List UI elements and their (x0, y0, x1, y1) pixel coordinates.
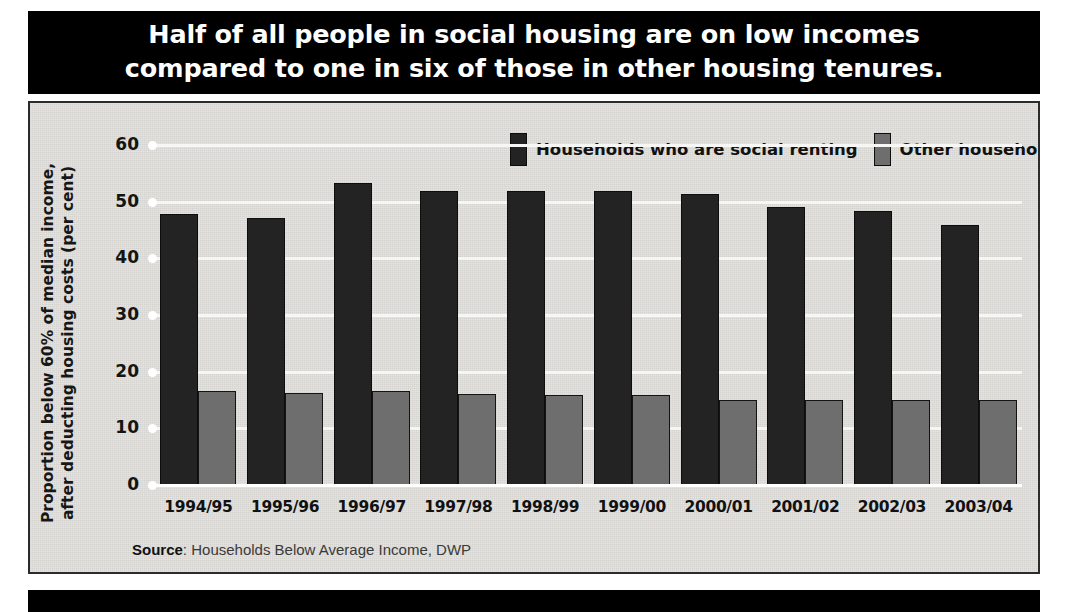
x-tick-label: 1997/98 (415, 498, 502, 522)
bar (805, 400, 843, 487)
x-axis-labels: 1994/951995/961996/971997/981998/991999/… (155, 498, 1022, 522)
chart-panel: Proportion below 60% of median income, a… (28, 101, 1040, 574)
bar-group (589, 147, 676, 487)
bar (632, 395, 670, 487)
bar (854, 211, 892, 487)
bar-group (849, 147, 936, 487)
bar (681, 194, 719, 487)
x-tick-label: 1994/95 (155, 498, 242, 522)
x-axis-line (155, 484, 1022, 487)
bar-group (502, 147, 589, 487)
bar-group (155, 147, 242, 487)
x-tick-label: 2000/01 (675, 498, 762, 522)
x-tick-label: 2001/02 (762, 498, 849, 522)
bar-group (242, 147, 329, 487)
bar (719, 400, 757, 487)
y-tick-label: 10 (115, 417, 139, 437)
bar (198, 391, 236, 487)
x-tick-label: 1999/00 (589, 498, 676, 522)
source-text: Households Below Average Income, DWP (191, 541, 471, 558)
bars-layer (155, 147, 1022, 487)
x-tick-label: 1996/97 (328, 498, 415, 522)
x-tick-label: 2003/04 (935, 498, 1022, 522)
bar (160, 214, 198, 487)
bar (594, 191, 632, 487)
y-tick-label: 0 (127, 474, 139, 494)
title-line-1: Half of all people in social housing are… (148, 17, 920, 51)
bar (285, 393, 323, 487)
bar (507, 191, 545, 487)
y-tick-label: 50 (115, 191, 139, 211)
y-axis-title: Proportion below 60% of median income, a… (38, 143, 78, 543)
title-line-2: compared to one in six of those in other… (125, 51, 943, 85)
y-axis-title-text: Proportion below 60% of median income, a… (38, 147, 78, 539)
bar (458, 394, 496, 487)
bar (545, 395, 583, 487)
y-tick-label: 20 (115, 361, 139, 381)
bottom-strip (28, 590, 1040, 612)
bar (334, 183, 372, 487)
bar-group (328, 147, 415, 487)
source-prefix: Source (132, 541, 183, 558)
plot-area: 0102030405060 (155, 147, 1022, 487)
y-tick-label: 60 (115, 134, 139, 154)
y-tick-label: 40 (115, 247, 139, 267)
bar-group (675, 147, 762, 487)
bar (979, 400, 1017, 487)
bar-group (762, 147, 849, 487)
x-tick-label: 1998/99 (502, 498, 589, 522)
bar (767, 207, 805, 487)
bar (372, 391, 410, 487)
bar (420, 191, 458, 487)
x-tick-label: 1995/96 (242, 498, 329, 522)
bar (247, 218, 285, 487)
bar-group (935, 147, 1022, 487)
figure-root: Half of all people in social housing are… (0, 0, 1068, 612)
x-tick-label: 2002/03 (849, 498, 936, 522)
bar (941, 225, 979, 487)
bar-group (415, 147, 502, 487)
source-note: Source: Households Below Average Income,… (132, 541, 471, 558)
y-tick-label: 30 (115, 304, 139, 324)
bar (892, 400, 930, 487)
title-banner: Half of all people in social housing are… (28, 11, 1040, 94)
source-separator: : (183, 541, 191, 558)
